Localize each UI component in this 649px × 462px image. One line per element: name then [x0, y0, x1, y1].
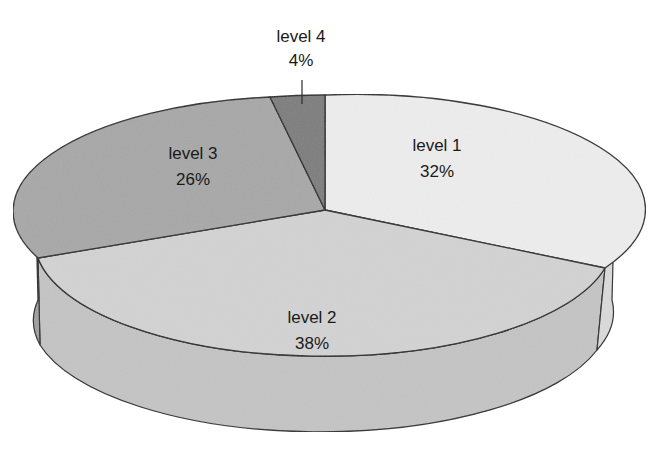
svg-text:4%: 4%	[289, 51, 314, 70]
svg-text:26%: 26%	[176, 170, 210, 189]
svg-text:38%: 38%	[295, 334, 329, 353]
svg-text:level 1: level 1	[412, 136, 461, 155]
label-level-3-pct: 26%	[176, 170, 210, 189]
label-level-2-name: level 2	[287, 308, 336, 327]
label-level-3-name: level 3	[168, 144, 217, 163]
svg-text:level 2: level 2	[287, 308, 336, 327]
label-level-2-pct: 38%	[295, 334, 329, 353]
pie-chart: level 4 4% level 1 32% level 3 26% level…	[0, 0, 649, 462]
label-level-4-name: level 4	[276, 27, 325, 46]
svg-text:level 4: level 4	[276, 27, 325, 46]
svg-text:32%: 32%	[420, 162, 454, 181]
pie-chart-svg: level 4 4% level 1 32% level 3 26% level…	[0, 0, 649, 462]
label-level-4-pct: 4%	[289, 51, 314, 70]
label-level-1-name: level 1	[412, 136, 461, 155]
svg-text:level 3: level 3	[168, 144, 217, 163]
label-level-1-pct: 32%	[420, 162, 454, 181]
